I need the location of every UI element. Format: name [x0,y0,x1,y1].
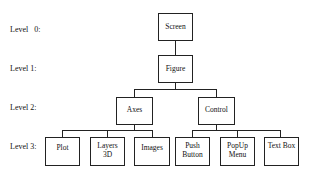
level-2-label: Level 2: [10,103,36,112]
node-images-label: Images [141,143,163,152]
edge-to-axes [134,89,135,97]
level-0-label: Level 0: [10,25,40,34]
node-images: Images [134,137,170,166]
edge-to-plot [62,130,63,137]
edge-figure-down [175,82,176,89]
node-text-box: Text Box [264,137,299,166]
node-popup-menu-line2: Menu [221,150,254,159]
node-layers3d: Layers 3D [90,137,125,166]
node-plot: Plot [45,137,80,166]
node-figure-label: Figure [166,64,186,73]
node-popup-menu: PopUp Menu [220,137,255,166]
node-popup-menu-line1: PopUp [221,141,254,150]
node-layers3d-line2: 3D [91,150,124,159]
node-screen-label: Screen [165,22,185,31]
edge-level2-bar [134,89,217,90]
edge-to-popup-menu [237,130,238,137]
edge-to-text-box [280,130,281,137]
node-control: Control [198,97,235,125]
node-axes: Axes [116,97,153,125]
edge-to-push-button [192,130,193,137]
node-push-button-line1: Push [176,141,209,150]
node-layers3d-line1: Layers [91,141,124,150]
edge-to-layers3d [107,130,108,137]
node-plot-label: Plot [56,143,68,152]
node-figure: Figure [158,55,193,83]
node-axes-label: Axes [127,105,142,114]
node-push-button: Push Button [175,137,210,166]
node-push-button-line2: Button [176,150,209,159]
node-control-label: Control [205,105,228,114]
level-1-label: Level 1: [10,64,36,73]
node-text-box-label: Text Box [268,141,296,150]
edge-to-images [152,130,153,137]
level-3-label: Level 3: [10,142,36,151]
edge-to-control [216,89,217,97]
edge-screen-figure [175,40,176,55]
node-screen: Screen [158,13,193,41]
